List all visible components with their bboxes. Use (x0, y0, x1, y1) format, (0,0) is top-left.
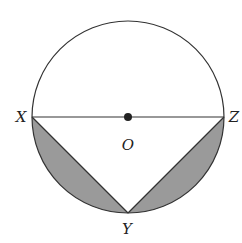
center-point-o (124, 113, 132, 121)
label-z: Z (228, 108, 240, 126)
circle-diagram: X Z O Y (0, 0, 242, 243)
label-o: O (122, 136, 134, 154)
label-x: X (15, 108, 28, 126)
label-y: Y (122, 220, 134, 238)
